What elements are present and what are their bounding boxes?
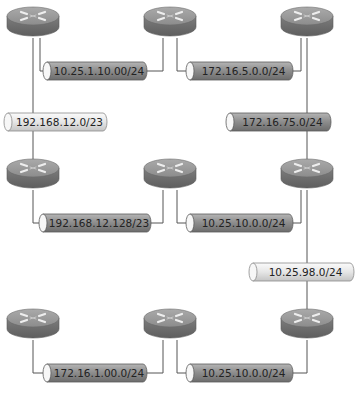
router-icon[interactable] xyxy=(281,309,333,338)
network-segment[interactable]: 172.16.5.0.0/24 xyxy=(186,62,293,80)
network-segment[interactable]: 172.16.1.00.0/24 xyxy=(43,364,147,382)
network-segment[interactable]: 192.168.12.0/23 xyxy=(4,113,107,131)
segment-label: 192.168.12.0/23 xyxy=(16,116,103,128)
segment-end-cap xyxy=(186,364,194,382)
segment-label: 192.168.12.128/23 xyxy=(49,217,149,229)
segment-label: 172.16.1.00.0/24 xyxy=(54,367,145,379)
segment-label: 10.25.10.0.0/24 xyxy=(202,217,286,229)
segment-end-cap xyxy=(249,263,257,281)
router-icon[interactable] xyxy=(144,309,196,338)
segment-label: 10.25.98.0/24 xyxy=(269,266,343,278)
router-icon[interactable] xyxy=(144,159,196,188)
network-segment[interactable]: 10.25.98.0/24 xyxy=(249,263,354,281)
router-icon[interactable] xyxy=(7,159,59,188)
link-seg1-r2 xyxy=(147,38,163,71)
network-diagram: 10.25.1.10.00/24172.16.5.0.0/24192.168.1… xyxy=(0,0,361,393)
segment-label: 172.16.75.0/24 xyxy=(242,116,323,128)
segment-end-cap xyxy=(186,62,194,80)
router-icon[interactable] xyxy=(144,7,196,36)
network-segment[interactable]: 172.16.75.0/24 xyxy=(226,113,331,131)
network-segment[interactable]: 10.25.10.0.0/24 xyxy=(186,364,293,382)
network-segment[interactable]: 192.168.12.128/23 xyxy=(39,214,151,232)
segment-label: 10.25.10.0.0/24 xyxy=(202,367,286,379)
network-segment[interactable]: 10.25.1.10.00/24 xyxy=(43,62,147,80)
segment-end-cap xyxy=(186,214,194,232)
segment-end-cap xyxy=(4,113,12,131)
segment-end-cap xyxy=(43,364,51,382)
link-seg5-r5 xyxy=(151,190,163,223)
segment-end-cap xyxy=(43,62,51,80)
network-segment[interactable]: 10.25.10.0.0/24 xyxy=(186,214,293,232)
router-icon[interactable] xyxy=(7,7,59,36)
segment-label: 172.16.5.0.0/24 xyxy=(202,65,286,77)
segment-label: 10.25.1.10.00/24 xyxy=(54,65,145,77)
router-icon[interactable] xyxy=(7,309,59,338)
link-seg6-r6 xyxy=(293,190,301,223)
router-icon[interactable] xyxy=(281,159,333,188)
router-icon[interactable] xyxy=(281,7,333,36)
segment-end-cap xyxy=(226,113,234,131)
link-seg8-r8 xyxy=(147,340,163,373)
segment-end-cap xyxy=(39,214,47,232)
link-seg2-r3 xyxy=(293,38,301,71)
routers xyxy=(7,7,333,338)
link-seg9-r9 xyxy=(293,340,307,373)
